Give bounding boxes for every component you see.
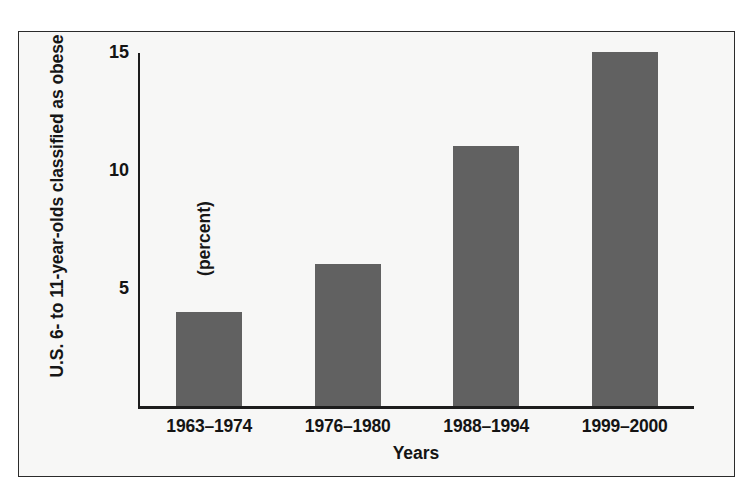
bar [315,264,381,406]
bars-layer [140,52,694,406]
y-tick-label: 5 [119,278,129,299]
x-tick-label: 1999–2000 [582,416,668,437]
x-tick-label: 1988–1994 [443,416,529,437]
x-axis-title: Years [138,443,694,464]
plot-area: 51015 1963–19741976–19801988–19941999–20… [138,32,698,478]
y-axis-title: U.S. 6- to 11-year-olds classified as ob… [35,8,79,404]
chart-frame: U.S. 6- to 11-year-olds classified as ob… [18,31,735,477]
y-tick-label: 15 [109,42,129,63]
y-tick-label: 10 [109,160,129,181]
bar [453,146,519,406]
x-axis-line [138,406,694,409]
x-tick-label: 1976–1980 [305,416,391,437]
x-tick-label: 1963–1974 [166,416,252,437]
y-axis-title-main: U.S. 6- to 11-year-olds classified as ob… [47,35,68,378]
bar [592,52,658,406]
bar [176,312,242,406]
